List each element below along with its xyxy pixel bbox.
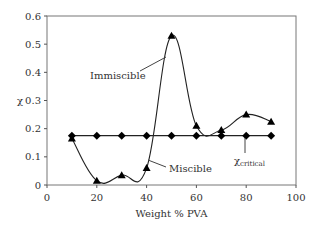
triangle-marker	[143, 164, 151, 171]
annotation-miscible: Miscible	[169, 163, 212, 174]
y-tick-label: 0.2	[25, 123, 41, 134]
chart: 00.10.20.30.40.50.6020406080100Weight % …	[0, 0, 319, 227]
annotation-chi-critical: χcritical	[234, 155, 266, 168]
y-tick-label: 0.5	[25, 39, 41, 50]
y-tick-label: 0.1	[25, 151, 41, 162]
axes: 00.10.20.30.40.50.6020406080100Weight % …	[17, 11, 306, 220]
diamond-marker	[93, 132, 101, 140]
leader-line	[148, 160, 166, 167]
y-tick-label: 0	[35, 180, 41, 191]
annotations: ImmiscibleMiscibleχcritical	[90, 57, 266, 174]
diamond-marker	[192, 132, 200, 140]
diamond-marker	[242, 132, 250, 140]
diamond-marker	[143, 132, 151, 140]
y-tick-label: 0.4	[25, 67, 41, 78]
triangle-marker	[192, 122, 200, 129]
triangle-marker	[267, 118, 275, 125]
x-axis-label: Weight % PVA	[136, 208, 209, 219]
x-tick-label: 80	[240, 192, 253, 203]
diamond-marker	[267, 132, 275, 140]
x-tick-label: 100	[286, 192, 305, 203]
diamond-marker	[168, 132, 176, 140]
y-tick-label: 0.6	[25, 11, 41, 22]
x-tick-label: 40	[140, 192, 153, 203]
diamond-marker	[118, 132, 126, 140]
y-tick-label: 0.3	[25, 95, 41, 106]
diamond-marker	[68, 132, 76, 140]
x-tick-label: 0	[44, 192, 50, 203]
annotation-immiscible: Immiscible	[90, 70, 146, 81]
x-tick-label: 20	[90, 192, 103, 203]
y-axis-label: χ	[17, 95, 23, 106]
x-tick-label: 60	[190, 192, 203, 203]
